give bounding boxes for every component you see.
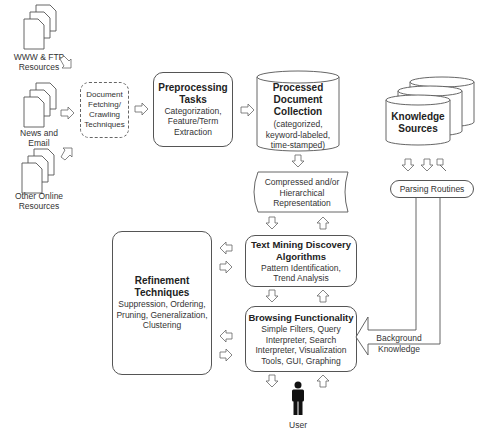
representation-label: Compressed and/or Hierarchical Represent…: [262, 177, 342, 209]
arrow-right-icon: [240, 104, 256, 116]
collection-title: Processed Document Collection: [258, 82, 338, 118]
arrow-down-icon: [402, 158, 414, 172]
arrow-diagonal-down-icon: [58, 54, 74, 70]
text-mining-discovery-box: Text Mining Discovery Algorithms Pattern…: [245, 235, 357, 287]
arrow-down-icon: [266, 289, 278, 303]
arrow-up-icon: [317, 289, 329, 303]
arrow-right-icon: [60, 107, 76, 119]
arrow-down-icon: [266, 374, 278, 388]
browsing-functionality-box: Browsing Functionality Simple Filters, Q…: [245, 306, 357, 372]
arrow-left-icon: [219, 330, 233, 342]
fetching-label: Document Fetching/ Crawling Techniques: [82, 90, 127, 130]
discovery-title: Text Mining Discovery Algorithms: [247, 239, 355, 263]
document-collection-text: Processed Document Collection (categoriz…: [258, 82, 338, 151]
arrow-up-icon: [317, 216, 329, 230]
discovery-detail: Pattern Identification, Trend Analysis: [256, 263, 346, 284]
arrow-right-icon: [219, 261, 233, 273]
preprocessing-tasks-box: Preprocessing Tasks Categorization, Feat…: [153, 72, 233, 147]
arrow-down-icon: [440, 158, 452, 172]
arrow-down-icon: [421, 158, 433, 172]
user-label: User: [283, 420, 313, 430]
preprocessing-detail: Categorization, Feature/Term Extraction: [160, 106, 226, 138]
parsing-routines-box: Parsing Routines: [390, 180, 474, 198]
preprocessing-title: Preprocessing Tasks: [158, 82, 228, 106]
refinement-title: Refinement Techniques: [117, 275, 207, 299]
refinement-techniques-box: Refinement Techniques Suppression, Order…: [112, 231, 212, 375]
source-news-email-label: News and Email: [14, 128, 64, 148]
document-fetching-box: Document Fetching/ Crawling Techniques: [80, 82, 129, 138]
background-knowledge-label: Background Knowledge: [369, 333, 429, 354]
knowledge-sources-title: Knowledge Sources: [390, 111, 446, 135]
user-icon: [289, 381, 307, 417]
browsing-title: Browsing Functionality: [246, 312, 356, 324]
document-stack-icon: [20, 148, 60, 196]
source-other-online-label: Other Online Resources: [6, 191, 72, 211]
arrow-left-icon: [219, 242, 233, 254]
browsing-detail: Simple Filters, Query Interpreter, Searc…: [251, 324, 351, 366]
document-stack-icon: [22, 82, 62, 130]
arrow-right-icon: [219, 349, 233, 361]
arrow-down-icon: [292, 154, 304, 168]
parsing-label: Parsing Routines: [400, 184, 465, 195]
arrow-up-icon: [317, 374, 329, 388]
arrow-right-icon: [134, 103, 150, 115]
refinement-detail: Suppression, Ordering, Pruning, Generali…: [116, 299, 208, 331]
collection-detail: (categorized, keyword-labeled, time-stam…: [258, 119, 338, 151]
arrow-diagonal-up-icon: [59, 146, 75, 162]
document-stack-icon: [22, 4, 62, 52]
arrow-down-icon: [266, 216, 278, 230]
